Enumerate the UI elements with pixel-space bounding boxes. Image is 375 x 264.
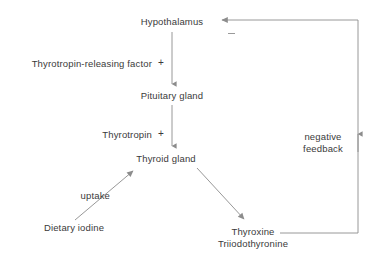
- edge-label-thyrotropin: Thyrotropin: [102, 129, 152, 141]
- feedback-label-line-2: feedback: [303, 143, 343, 155]
- negative-sign-mark: [228, 33, 235, 34]
- feedback-label-line-1: negative: [303, 131, 343, 143]
- node-triiodothyronine: Triiodothyronine: [218, 238, 288, 250]
- edge-label-thyrotropin-releasing-factor: Thyrotropin-releasing factor: [32, 58, 152, 70]
- node-thyroxine: Thyroxine: [231, 226, 274, 238]
- feedback-label: negative feedback: [303, 131, 343, 155]
- thyroid-axis-diagram: Hypothalamus Pituitary gland Thyroid gla…: [0, 0, 375, 264]
- plus-sign-thyrotropin: +: [158, 128, 164, 140]
- node-pituitary-gland: Pituitary gland: [141, 90, 203, 102]
- node-hypothalamus: Hypothalamus: [141, 16, 204, 28]
- plus-sign-trf: +: [158, 57, 164, 69]
- feedback-loop-path: [222, 20, 358, 233]
- edge-thyroid-to-hormones: [197, 168, 244, 219]
- node-dietary-iodine: Dietary iodine: [44, 222, 104, 234]
- edge-label-uptake: uptake: [81, 190, 110, 202]
- node-thyroid-gland: Thyroid gland: [136, 153, 196, 165]
